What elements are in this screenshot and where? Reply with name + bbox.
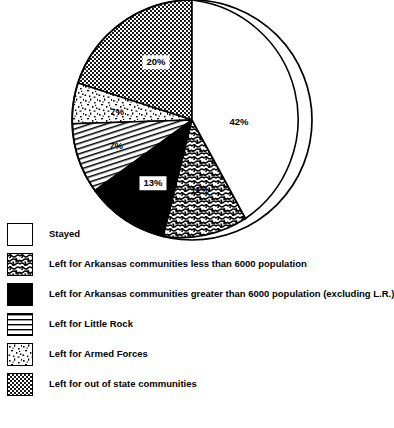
legend-swatch-stayed bbox=[7, 223, 33, 246]
legend-swatch-out-of-state bbox=[7, 373, 33, 396]
legend-item-out-of-state: Left for out of state communities bbox=[7, 369, 392, 399]
pie-chart-svg bbox=[0, 0, 392, 248]
legend-swatch-ar-large bbox=[7, 283, 33, 306]
pie-label-ar-small: 11% bbox=[191, 185, 210, 195]
chart-legend: Stayed Left for Arkansas communities les… bbox=[7, 219, 392, 399]
legend-swatch-little-rock bbox=[7, 313, 33, 336]
pie-label-little-rock: 7% bbox=[109, 141, 123, 151]
legend-label-ar-small: Left for Arkansas communities less than … bbox=[49, 259, 307, 269]
legend-item-stayed: Stayed bbox=[7, 219, 392, 249]
pie-label-ar-large: 13% bbox=[139, 176, 166, 190]
legend-label-stayed: Stayed bbox=[49, 229, 80, 239]
legend-item-little-rock: Left for Little Rock bbox=[7, 309, 392, 339]
pie-chart: 42% 11% 13% 7% 7% 20% bbox=[0, 0, 392, 248]
legend-swatch-ar-small bbox=[7, 253, 33, 276]
legend-item-ar-small: Left for Arkansas communities less than … bbox=[7, 249, 392, 279]
pie-label-out-of-state: 20% bbox=[142, 55, 169, 69]
legend-label-out-of-state: Left for out of state communities bbox=[49, 379, 197, 389]
pie-label-stayed: 42% bbox=[229, 117, 248, 127]
legend-item-armed-forces: Left for Armed Forces bbox=[7, 339, 392, 369]
legend-item-ar-large: Left for Arkansas communities greater th… bbox=[7, 279, 392, 309]
legend-label-little-rock: Left for Little Rock bbox=[49, 319, 133, 329]
legend-swatch-armed-forces bbox=[7, 343, 33, 366]
legend-label-ar-large: Left for Arkansas communities greater th… bbox=[49, 289, 394, 299]
pie-label-armed-forces: 7% bbox=[110, 107, 124, 117]
legend-label-armed-forces: Left for Armed Forces bbox=[49, 349, 148, 359]
